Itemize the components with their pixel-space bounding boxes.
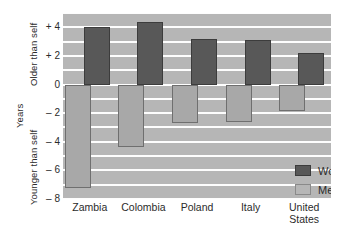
y-axis-title-group: Years Older than self Younger than self xyxy=(2,0,32,212)
x-tick-label-line: States xyxy=(277,213,331,225)
x-axis-tick-labels: ZambiaColombiaPolandItalyUnitedStates xyxy=(63,201,331,236)
x-tick-label-line: Zambia xyxy=(63,201,117,213)
x-tick-label-line: United xyxy=(277,201,331,213)
y-tick-label: – 4 xyxy=(33,137,60,147)
y-tick-label: – 6 xyxy=(33,165,60,175)
x-tick-label: Colombia xyxy=(117,201,171,213)
bar-poland-women xyxy=(191,39,217,85)
gridline xyxy=(63,198,331,199)
legend-item-men: Men xyxy=(295,180,331,199)
bar-zambia-men xyxy=(65,85,91,188)
gridline xyxy=(63,141,331,143)
bar-colombia-men xyxy=(118,85,144,148)
bar-united-states-men xyxy=(279,85,305,111)
y-tick-label: + 2 xyxy=(33,51,60,61)
legend: WomenMen xyxy=(295,161,331,199)
y-tick-label: 0 xyxy=(33,80,60,90)
y-axis-unit-label: Years xyxy=(14,104,25,128)
legend-label: Women xyxy=(318,165,331,177)
plot-area: WomenMen xyxy=(63,13,331,199)
bar-united-states-women xyxy=(298,53,324,84)
bar-italy-women xyxy=(245,40,271,84)
legend-swatch-men xyxy=(295,184,311,195)
bar-zambia-women xyxy=(84,27,110,84)
x-tick-label: Italy xyxy=(224,201,278,213)
y-tick-label: + 4 xyxy=(33,22,60,32)
bar-colombia-women xyxy=(137,22,163,85)
bar-italy-men xyxy=(226,85,252,122)
legend-swatch-women xyxy=(295,165,311,176)
x-tick-label: Poland xyxy=(170,201,224,213)
y-tick-label: – 8 xyxy=(33,194,60,204)
x-tick-label-line: Italy xyxy=(224,201,278,213)
bar-chart-figure: Years Older than self Younger than self … xyxy=(0,0,337,236)
x-tick-label: Zambia xyxy=(63,201,117,213)
legend-item-women: Women xyxy=(295,161,331,180)
gridline xyxy=(63,169,331,171)
y-tick-label: – 2 xyxy=(33,108,60,118)
gridline xyxy=(63,155,331,157)
gridline xyxy=(63,184,331,186)
gridline xyxy=(63,13,331,14)
x-tick-label: UnitedStates xyxy=(277,201,331,225)
legend-label: Men xyxy=(318,184,331,196)
y-axis-tick-labels: + 4+ 20– 2– 4– 6– 8 xyxy=(33,0,60,212)
bar-poland-men xyxy=(172,85,198,124)
x-tick-label-line: Poland xyxy=(170,201,224,213)
x-tick-label-line: Colombia xyxy=(117,201,171,213)
gridline xyxy=(63,126,331,128)
